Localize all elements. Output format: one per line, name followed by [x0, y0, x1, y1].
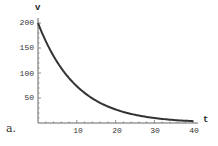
y-tick-label-100: 100: [14, 70, 34, 78]
x-tick-label-30: 30: [145, 127, 165, 135]
decay-curve: [38, 23, 193, 121]
panel-label: a.: [6, 122, 16, 135]
x-tick-label-40: 40: [184, 127, 204, 135]
y-axis-label: v: [35, 3, 40, 13]
x-tick-label-10: 10: [68, 127, 88, 135]
tick-marks: [38, 23, 193, 123]
y-tick-label-150: 150: [14, 44, 34, 52]
y-tick-label-50: 50: [14, 94, 34, 102]
y-tick-label-200: 200: [14, 19, 34, 27]
x-tick-label-20: 20: [107, 127, 127, 135]
x-axis-label: t: [203, 115, 208, 125]
